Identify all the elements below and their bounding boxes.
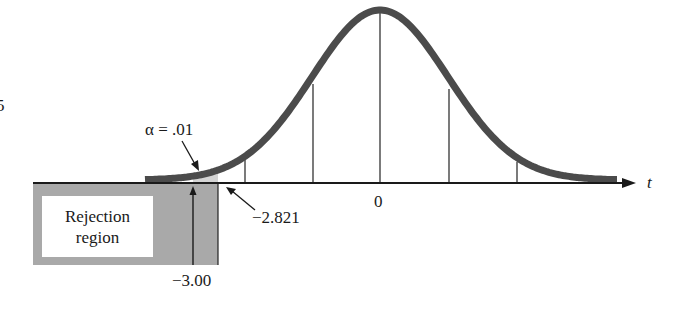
alpha-pointer-arrowhead (191, 160, 199, 171)
rejection-label-line2: region (76, 227, 119, 248)
rejection-label-line1: Rejection (65, 206, 130, 227)
test-statistic-label: −3.00 (172, 272, 211, 289)
edge-fragment-label: 5 (0, 97, 5, 114)
t-distribution-chart (0, 0, 679, 312)
zero-tick-label: 0 (374, 193, 383, 210)
alpha-pointer-line (182, 141, 196, 166)
rejection-region-label: Rejection region (42, 196, 153, 257)
critical-value-label: −2.821 (252, 209, 300, 226)
axis-t-label: t (647, 174, 652, 191)
x-axis-arrowhead (622, 178, 636, 188)
alpha-label: α = .01 (145, 121, 193, 138)
density-curve (145, 10, 617, 180)
